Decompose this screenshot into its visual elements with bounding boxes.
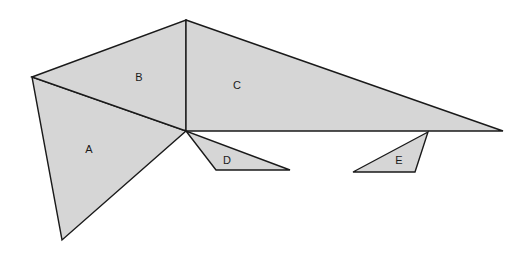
label-d: D xyxy=(223,154,231,166)
label-b: B xyxy=(135,71,142,83)
shape-e: E xyxy=(353,132,428,172)
label-a: A xyxy=(85,143,93,155)
triangle-c xyxy=(186,20,503,131)
label-c: C xyxy=(233,79,241,91)
shape-c: C xyxy=(186,20,503,131)
label-e: E xyxy=(395,154,402,166)
shape-d: D xyxy=(186,131,290,170)
triangle-d xyxy=(186,131,290,170)
triangle-e xyxy=(353,132,428,172)
shapes-diagram: A B C D E xyxy=(0,0,531,254)
